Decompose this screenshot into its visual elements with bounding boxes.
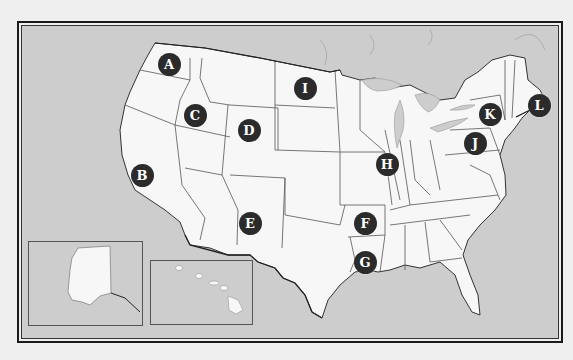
marker-f: F bbox=[354, 212, 377, 235]
marker-l: L bbox=[528, 94, 551, 117]
marker-k: K bbox=[479, 103, 502, 126]
alaska-inset bbox=[29, 242, 143, 326]
marker-c: C bbox=[184, 104, 207, 127]
marker-b: B bbox=[131, 164, 154, 187]
marker-a: A bbox=[158, 53, 181, 76]
us-map bbox=[0, 0, 573, 360]
marker-g: G bbox=[354, 251, 377, 274]
marker-d: D bbox=[238, 119, 261, 142]
marker-e: E bbox=[239, 212, 262, 235]
hawaii-inset bbox=[151, 261, 253, 325]
marker-h: H bbox=[376, 153, 399, 176]
marker-i: I bbox=[294, 77, 317, 100]
marker-j: J bbox=[464, 132, 487, 155]
